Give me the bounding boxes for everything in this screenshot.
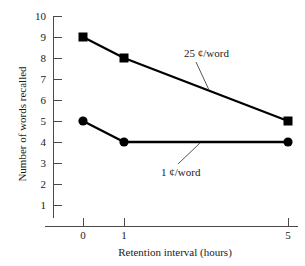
y-tick-label: 1 [24, 200, 46, 211]
y-tick-label: 9 [24, 32, 46, 43]
y-tick-marks [54, 17, 63, 206]
chart-figure: 10 9 8 7 6 5 4 3 2 1 0 1 5 Number of wor… [0, 0, 305, 266]
x-axis-title: Retention interval (hours) [55, 246, 295, 258]
x-tick-marks [84, 218, 289, 227]
x-tick-label: 5 [278, 230, 298, 241]
data-point-marker [79, 33, 88, 42]
data-point-marker [284, 117, 293, 126]
data-point-marker [78, 116, 87, 125]
x-tick-label: 1 [114, 230, 134, 241]
series-annotation-25cent: 25 ¢/word [184, 47, 229, 59]
x-tick-label: 0 [73, 230, 93, 241]
data-point-marker [283, 137, 292, 146]
data-point-marker [120, 54, 129, 63]
annotation-leader-1cent [178, 143, 200, 164]
series-line-1cent [83, 121, 288, 142]
y-tick-label: 10 [24, 11, 46, 22]
y-axis-title: Number of words recalled [16, 54, 28, 194]
series-annotation-1cent: 1 ¢/word [161, 166, 200, 178]
data-point-marker [119, 137, 128, 146]
